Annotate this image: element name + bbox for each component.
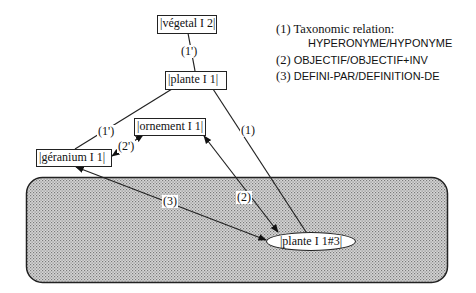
- node-vegetal: |végetal I 2|: [157, 15, 217, 34]
- node-plante-instance-label: |plante I 1#3|: [280, 234, 342, 248]
- legend-item-1: (1) Taxonomic relation:: [276, 22, 452, 36]
- node-ornement: |ornement I 1|: [134, 118, 206, 136]
- node-geranium: |géranium I 1|: [36, 149, 112, 167]
- edge-label-plante-instance: (1): [240, 124, 256, 137]
- node-plante: |plante I 1|: [165, 71, 227, 90]
- legend-item-3: (3) DEFINI-PAR/DEFINITION-DE: [276, 69, 452, 83]
- node-geranium-label: |géranium I 1|: [39, 150, 105, 164]
- node-ornement-label: |ornement I 1|: [137, 119, 203, 133]
- node-plante-label: |plante I 1|: [168, 72, 218, 86]
- legend-item-2: (2) OBJECTIF/OBJECTIF+INV: [276, 53, 452, 67]
- edge-label-ornement-instance: (2): [236, 191, 252, 204]
- edge-label-plante-geranium: (1'): [97, 125, 115, 138]
- legend-item-1-detail: HYPERONYME/HYPONYME: [276, 36, 452, 50]
- edge-label-vegetal-plante: (1'): [180, 45, 198, 58]
- edge-label-geranium-ornement: (2'): [117, 140, 135, 153]
- node-plante-instance: |plante I 1#3|: [266, 232, 356, 251]
- semantic-network-diagram: |végetal I 2| |plante I 1| |ornement I 1…: [0, 0, 476, 293]
- edge-label-geranium-instance: (3): [162, 195, 178, 208]
- legend: (1) Taxonomic relation: HYPERONYME/HYPON…: [276, 22, 452, 83]
- node-vegetal-label: |végetal I 2|: [160, 16, 215, 30]
